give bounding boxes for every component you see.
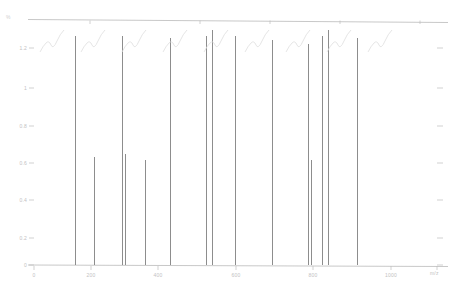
x-axis-label-1: 200 (87, 272, 96, 278)
y-axis-label-5: 0.2 (19, 235, 27, 241)
x-axis-label-2: 400 (154, 272, 163, 278)
top-axis-label: % (6, 14, 11, 20)
y-axis-label-6: 0 (24, 262, 27, 268)
spectrum-plot (0, 0, 452, 286)
x-axis-label-4: 800 (309, 272, 318, 278)
y-axis-label-0: 1.2 (19, 45, 27, 51)
peak-annotation-1 (81, 30, 105, 52)
y-axis-label-2: 0.8 (19, 123, 27, 129)
peak-annotation-8 (368, 30, 392, 52)
y-axis-label-1: 1 (24, 85, 27, 91)
y-axis-label-4: 0.4 (19, 197, 27, 203)
peak-annotation-0 (40, 30, 64, 52)
peak-annotation-6 (286, 30, 310, 52)
x-axis-label-3: 600 (232, 272, 241, 278)
top-axis-line (28, 20, 448, 23)
right-axis-corner-label: m/z (430, 270, 439, 276)
peak-annotation-3 (163, 30, 187, 52)
peak-annotation-7 (327, 30, 351, 52)
peak-annotation-5 (245, 30, 269, 52)
peak-annotation-2 (122, 30, 146, 52)
y-axis-label-3: 0.6 (19, 160, 27, 166)
x-axis-label-0: 0 (33, 272, 36, 278)
x-axis-label-5: 1000 (385, 272, 397, 278)
peak-annotation-4 (204, 30, 228, 52)
